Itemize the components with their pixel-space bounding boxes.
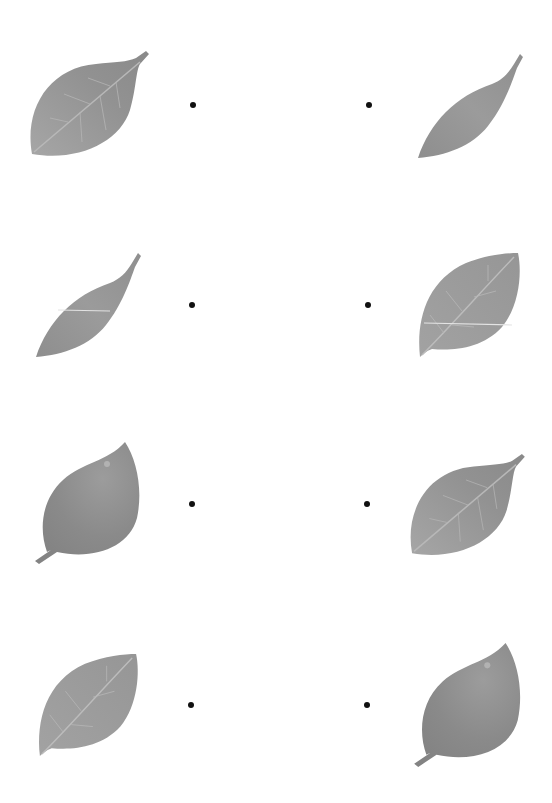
narrow-lanceolate-leaf-icon[interactable] <box>416 52 524 160</box>
match-dot-row2-right[interactable] <box>365 302 371 308</box>
match-dot-row4-right[interactable] <box>364 702 370 708</box>
match-dot-row2-left[interactable] <box>189 302 195 308</box>
oval-veined-leaf-icon[interactable] <box>416 251 522 359</box>
match-dot-row1-left[interactable] <box>190 102 196 108</box>
broad-veined-leaf-icon[interactable] <box>406 453 528 559</box>
match-dot-row4-left[interactable] <box>188 702 194 708</box>
narrow-lanceolate-leaf-icon[interactable] <box>34 251 142 359</box>
match-dot-row1-right[interactable] <box>366 102 372 108</box>
glossy-stemmed-leaf-icon[interactable] <box>411 641 525 773</box>
leaf-matching-worksheet <box>0 0 552 803</box>
oval-veined-leaf-icon[interactable] <box>36 651 140 759</box>
broad-veined-leaf-icon[interactable] <box>28 50 150 160</box>
match-dot-row3-right[interactable] <box>364 501 370 507</box>
glossy-stemmed-leaf-icon[interactable] <box>33 440 143 570</box>
match-dot-row3-left[interactable] <box>189 501 195 507</box>
